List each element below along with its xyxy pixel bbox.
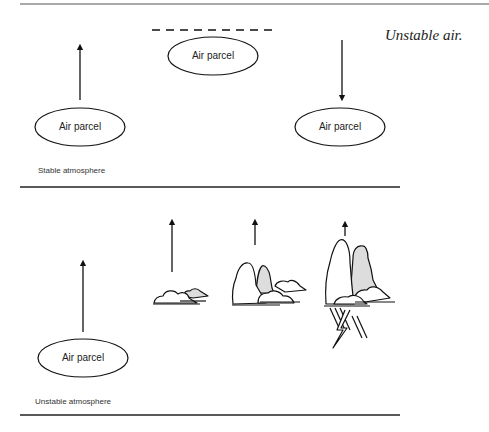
- stable-parcel-top-label: Air parcel: [168, 50, 258, 61]
- unstable-atmosphere-label: Unstable atmosphere: [35, 397, 111, 406]
- unstable-parcel-label: Air parcel: [38, 352, 128, 363]
- cumulonimbus-icon: [324, 224, 395, 348]
- stable-parcel-left-label: Air parcel: [35, 121, 125, 132]
- figure-caption: Unstable air.: [385, 27, 463, 44]
- diagram-canvas: [0, 0, 489, 432]
- stable-atmosphere-label: Stable atmosphere: [38, 166, 105, 175]
- stable-parcel-right-label: Air parcel: [295, 121, 385, 132]
- small-cumulus-icon: [153, 222, 208, 304]
- towering-cumulus-icon: [232, 222, 306, 305]
